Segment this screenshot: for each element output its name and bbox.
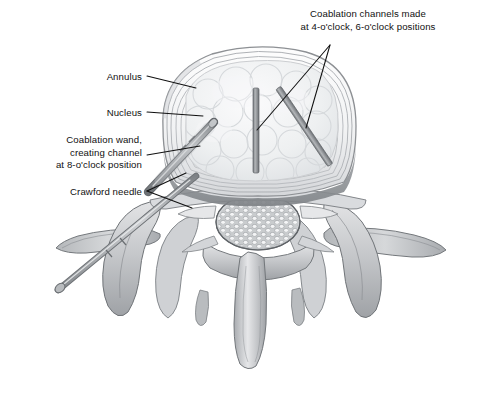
- label-coablation-wand: Coablation wand, creating channel at 8-o…: [8, 134, 142, 172]
- channel-6-oclock: [253, 88, 259, 173]
- spinous-process: [234, 252, 267, 369]
- label-annulus: Annulus: [18, 71, 142, 84]
- medical-illustration-figure: Coablation channels made at 4-o'clock, 6…: [0, 0, 477, 400]
- left-mammillary-process: [196, 290, 209, 326]
- anatomy-drawing: [0, 0, 477, 400]
- left-superior-articular-process: [103, 202, 161, 316]
- left-epidural-fold: [178, 206, 216, 219]
- left-lamina: [156, 216, 199, 318]
- label-crawford-needle: Crawford needle: [18, 186, 142, 199]
- label-nucleus: Nucleus: [18, 107, 142, 120]
- right-superior-articular-process: [324, 202, 382, 318]
- label-coablation-channels: Coablation channels made at 4-o'clock, 6…: [272, 8, 464, 33]
